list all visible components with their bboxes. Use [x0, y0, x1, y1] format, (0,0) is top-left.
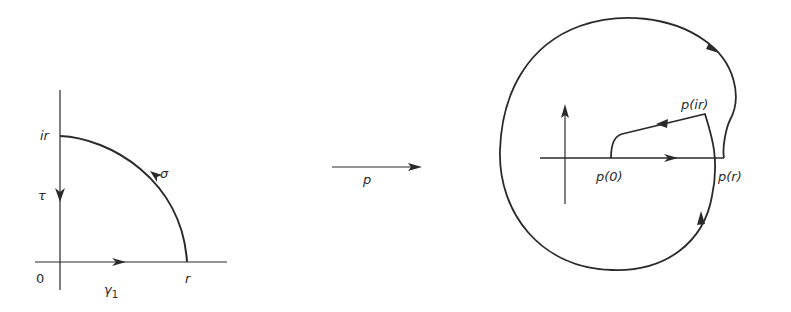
label-p-r: p(r) — [717, 169, 742, 184]
label-mapping-p: p — [362, 172, 371, 187]
label-gamma1: γ1 — [104, 282, 118, 300]
mapping-arrow: p — [332, 163, 422, 187]
contour-arrow-segment-icon — [656, 119, 668, 128]
image-contour-curve — [500, 18, 736, 270]
left-contour-figure: ir τ σ 0 r γ1 — [35, 90, 227, 300]
label-gamma1-subscript: 1 — [112, 289, 118, 300]
label-sigma: σ — [160, 166, 169, 181]
contour-arrow-upper-right-icon — [706, 43, 719, 53]
label-p-0: p(0) — [595, 169, 623, 184]
right-image-figure: p(ir) p(0) p(r) — [500, 18, 742, 270]
label-p-ir: p(ir) — [680, 97, 708, 112]
sigma-arc — [60, 136, 187, 262]
label-tau: τ — [38, 188, 46, 203]
contour-arrow-lower-right-icon — [697, 211, 705, 225]
label-r: r — [185, 271, 192, 286]
label-ir: ir — [40, 128, 51, 143]
contour-mapping-diagram: ir τ σ 0 r γ1 p p(ir) p(0) p(r) — [0, 0, 791, 312]
label-origin: 0 — [36, 271, 44, 286]
